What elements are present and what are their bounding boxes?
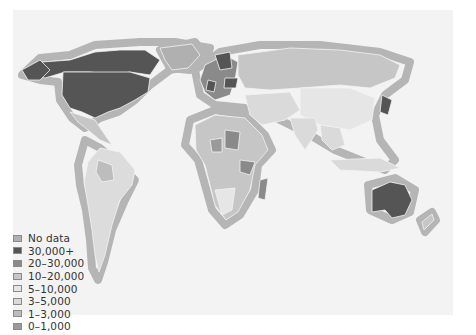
legend-item-no-data: No data <box>13 232 84 245</box>
legend-label: 1–3,000 <box>28 308 71 320</box>
legend-item-5-10000: 5–10,000 <box>13 282 84 295</box>
legend-swatch <box>13 310 22 317</box>
legend-label: 3–5,000 <box>28 295 71 307</box>
legend-label: 30,000+ <box>28 245 74 257</box>
legend-item-0-1000: 0–1,000 <box>13 320 84 333</box>
legend-swatch <box>13 235 22 242</box>
legend-label: 10–20,000 <box>28 270 84 282</box>
map-legend: No data 30,000+ 20–30,000 10–20,000 5–10… <box>13 232 84 333</box>
legend-swatch <box>13 260 22 267</box>
legend-item-30000-plus: 30,000+ <box>13 245 84 258</box>
legend-swatch <box>13 247 22 254</box>
legend-label: 0–1,000 <box>28 320 71 332</box>
legend-item-20-30000: 20–30,000 <box>13 257 84 270</box>
legend-item-10-20000: 10–20,000 <box>13 270 84 283</box>
legend-item-1-3000: 1–3,000 <box>13 308 84 321</box>
legend-swatch <box>13 273 22 280</box>
legend-swatch <box>13 298 22 305</box>
legend-label: No data <box>28 232 70 244</box>
legend-label: 20–30,000 <box>28 257 84 269</box>
legend-item-3-5000: 3–5,000 <box>13 295 84 308</box>
legend-swatch <box>13 323 22 330</box>
legend-swatch <box>13 285 22 292</box>
legend-label: 5–10,000 <box>28 283 77 295</box>
